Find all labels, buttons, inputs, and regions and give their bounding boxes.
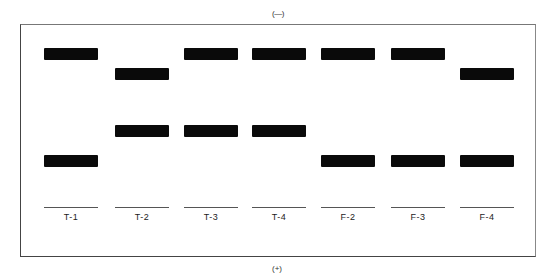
band-middle xyxy=(184,125,238,137)
anode-positive-label: (+) xyxy=(257,264,297,273)
band-upper xyxy=(321,48,375,60)
sample-well-line xyxy=(391,207,445,208)
sample-well-line xyxy=(44,207,98,208)
band-lower xyxy=(44,155,98,167)
band-lower xyxy=(321,155,375,167)
band-upper xyxy=(391,48,445,60)
lane-label: F-3 xyxy=(391,212,445,222)
band-middle xyxy=(115,125,169,137)
cathode-negative-label: (—) xyxy=(258,9,298,18)
sample-well-line xyxy=(252,207,306,208)
sample-well-line xyxy=(115,207,169,208)
band-upper xyxy=(252,48,306,60)
lane-label: T-2 xyxy=(115,212,169,222)
band-middle xyxy=(252,125,306,137)
sample-well-line xyxy=(184,207,238,208)
band-lower xyxy=(460,155,514,167)
sample-well-line xyxy=(321,207,375,208)
lane-label: T-4 xyxy=(252,212,306,222)
lane-label: T-3 xyxy=(184,212,238,222)
lane-label: F-4 xyxy=(460,212,514,222)
lane-label: T-1 xyxy=(44,212,98,222)
band-lower xyxy=(391,155,445,167)
band-second xyxy=(115,68,169,80)
lane-label: F-2 xyxy=(321,212,375,222)
band-second xyxy=(460,68,514,80)
sample-well-line xyxy=(460,207,514,208)
band-upper xyxy=(44,48,98,60)
band-upper xyxy=(184,48,238,60)
